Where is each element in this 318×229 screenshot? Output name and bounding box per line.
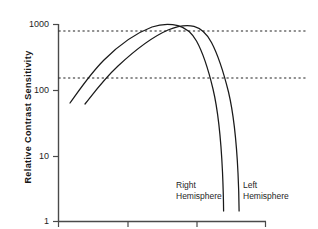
contrast-sensitivity-chart: 1000 100 10 1 Relative Contrast Sensitiv… (0, 0, 318, 229)
series-label-right-hemisphere-line1: Right (176, 180, 222, 191)
y-tick-label-1: 1 (5, 216, 49, 226)
series-label-left-hemisphere-line1: Left (243, 180, 289, 191)
series-label-left-hemisphere: Left Hemisphere (243, 180, 289, 201)
series-label-left-hemisphere-line2: Hemisphere (243, 191, 289, 202)
series-label-right-hemisphere: Right Hemisphere (176, 180, 222, 201)
y-axis-title: Relative Contrast Sensitivity (23, 27, 33, 207)
series-label-right-hemisphere-line2: Hemisphere (176, 191, 222, 202)
